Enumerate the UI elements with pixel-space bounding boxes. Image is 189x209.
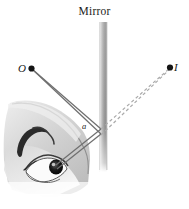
virtual-ray-lower bbox=[101, 69, 170, 135]
reflection-diagram-figure: Mirror O I a bbox=[0, 0, 189, 209]
virtual-ray-upper bbox=[101, 68, 170, 129]
angle-label: a bbox=[82, 122, 86, 131]
face-bottom-fade-2 bbox=[0, 194, 100, 209]
image-point-dot bbox=[167, 64, 173, 70]
mirror-bar bbox=[100, 22, 108, 172]
mirror-label: Mirror bbox=[0, 6, 189, 18]
object-point-dot bbox=[28, 65, 34, 71]
mirror-bar-sheen bbox=[100, 22, 108, 172]
eye-highlight bbox=[52, 163, 56, 167]
diagram-canvas bbox=[0, 0, 189, 209]
image-point-label: I bbox=[174, 62, 178, 73]
object-point-label: O bbox=[18, 63, 26, 74]
virtual-dashed-rays bbox=[101, 68, 170, 135]
